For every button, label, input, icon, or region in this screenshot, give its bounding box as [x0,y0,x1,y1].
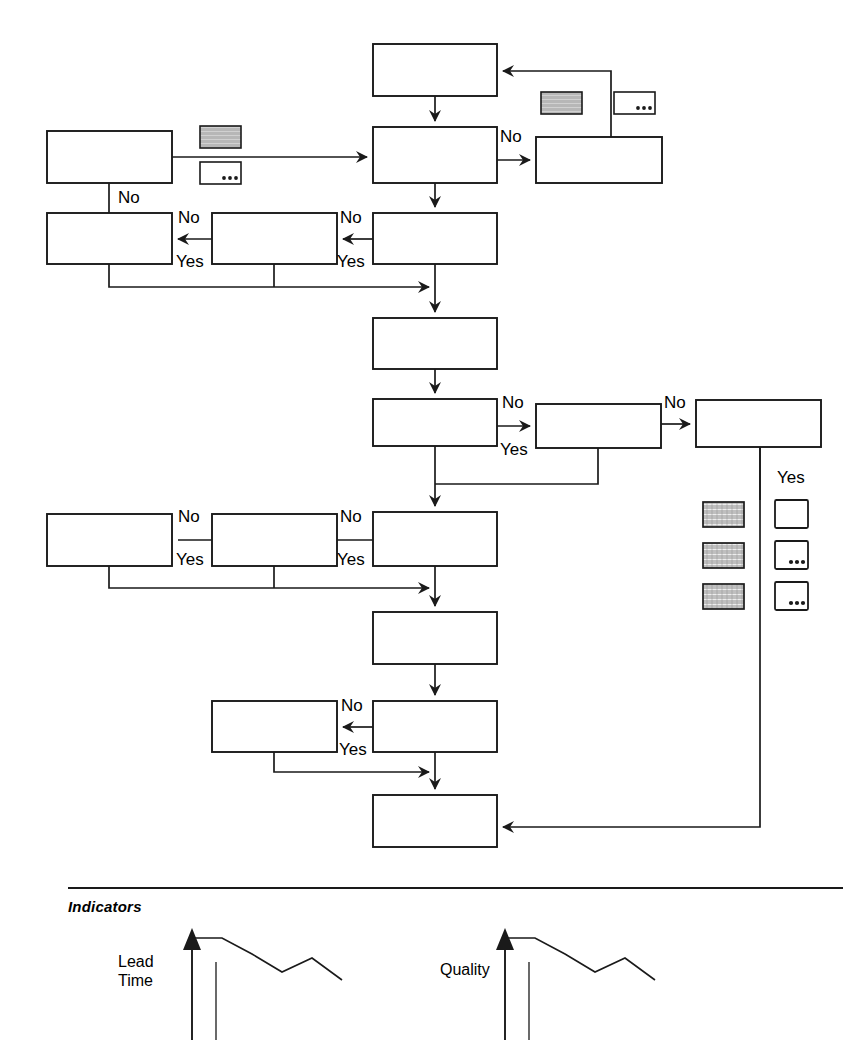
edge-label-no: No [664,393,686,412]
process-box[interactable] [696,400,821,447]
hatched-note-icon[interactable] [541,92,582,114]
indicator-series-line [192,938,342,980]
edge-label-no: No [118,188,140,207]
process-box[interactable] [373,795,497,847]
process-box[interactable] [373,701,497,752]
edge-label-no: No [500,127,522,146]
ellipsis-dot [222,176,226,180]
ellipsis-note-icon[interactable] [200,162,241,184]
ellipsis-dot [801,560,805,564]
process-box[interactable] [373,213,497,264]
edge-label-no: No [341,696,363,715]
axis-arrow-icon [496,928,514,950]
legend-ellipsis-box[interactable] [775,582,808,610]
process-box[interactable] [373,127,497,183]
process-box[interactable] [373,399,497,446]
process-box[interactable] [373,512,497,566]
legend-hatched-box[interactable] [703,502,744,527]
process-box[interactable] [373,318,497,369]
ellipsis-dot [795,560,799,564]
edge-label-no: No [502,393,524,412]
edge-label-yes: Yes [337,252,365,271]
process-box[interactable] [536,137,662,183]
ellipsis-dot [228,176,232,180]
edge-label-yes: Yes [500,440,528,459]
edge-label-no: No [340,507,362,526]
legend-yes-label: Yes [777,468,805,487]
ellipsis-dot [648,106,652,110]
hatched-note-icon[interactable] [200,126,241,148]
ellipsis-dot [234,176,238,180]
ellipsis-dot [636,106,640,110]
process-box[interactable] [47,131,172,183]
edge-row2left-yes-rejoin [109,264,429,287]
indicator-axis-label-line: Time [118,971,154,990]
indicators-section-title: Indicators [68,898,142,915]
indicator-axis-label-line: Lead [118,952,154,971]
ellipsis-dot [801,601,805,605]
ellipsis-note-icon[interactable] [614,92,655,114]
edge-label-yes: Yes [176,252,204,271]
edge-label-no: No [340,208,362,227]
process-box[interactable] [212,701,337,752]
ellipsis-dot [789,560,793,564]
edge-label-yes: Yes [337,550,365,569]
legend-layer [703,500,808,610]
process-box[interactable] [47,213,172,264]
legend-hatched-box[interactable] [703,543,744,568]
legend-ellipsis-box[interactable] [775,541,808,569]
process-box[interactable] [212,213,337,264]
flowchart-canvas [0,0,868,1040]
ellipsis-dot [789,601,793,605]
edge-label-yes: Yes [176,550,204,569]
indicator-axis-label-line: Quality [440,960,490,979]
process-box[interactable] [536,404,661,448]
ellipsis-dot [642,106,646,110]
edge-label-no: No [178,208,200,227]
indicator-chart-layer [183,928,655,1040]
process-box[interactable] [47,514,172,566]
process-box[interactable] [373,612,497,664]
legend-plain-box[interactable] [775,500,808,528]
edge-label-yes: Yes [339,740,367,759]
process-box[interactable] [373,44,497,96]
process-box[interactable] [212,514,337,566]
flowchart-page: YesNoNoNoYesNoYesNoYesNoNoYesNoYesNoYes … [0,0,868,1040]
edge-row5left-yes-rejoin [109,566,429,588]
indicator-axis-label: LeadTime [118,952,154,990]
indicator-chart [183,928,342,1040]
legend-hatched-box[interactable] [703,584,744,609]
ellipsis-dot [795,601,799,605]
indicator-chart [496,928,655,1040]
axis-arrow-icon [183,928,201,950]
process-box-layer [47,44,821,847]
indicator-axis-label: Quality [440,960,490,979]
indicator-series-line [505,938,655,980]
edge-label-no: No [178,507,200,526]
